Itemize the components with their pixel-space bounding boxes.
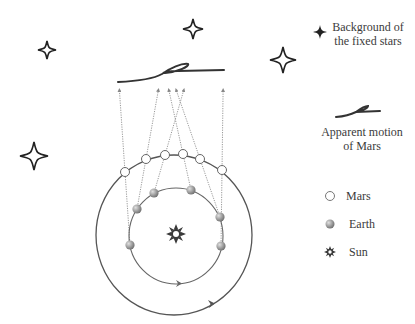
sun-icon — [166, 224, 186, 244]
fixed-star-icon — [38, 41, 56, 59]
legend-apparent-motion-line2: of Mars — [312, 139, 412, 153]
legend-mars-label: Mars — [346, 189, 371, 204]
legend-fixed-stars-line1: Background of — [328, 20, 408, 34]
legend-sun-icon — [324, 246, 336, 258]
earth-position — [125, 240, 134, 249]
mars-position — [218, 166, 227, 175]
earth-position — [215, 212, 224, 221]
retrograde-diagram — [0, 0, 415, 324]
apparent-motion-path — [118, 64, 224, 82]
fixed-stars — [20, 19, 296, 170]
legend-apparent-motion-label: Apparent motion of Mars — [312, 125, 412, 153]
mars-positions — [121, 150, 227, 177]
legend-earth-icon — [326, 220, 335, 229]
legend-fixed-star-icon — [313, 25, 327, 39]
mars-position — [142, 155, 151, 164]
legend-fixed-stars-line2: the fixed stars — [328, 34, 408, 48]
mars-position — [196, 155, 205, 164]
earth-position — [216, 241, 225, 250]
fixed-star-icon — [20, 142, 48, 170]
sight-lines — [119, 90, 223, 246]
legend-sun-label: Sun — [349, 245, 368, 260]
legend-earth-label: Earth — [349, 217, 375, 232]
mars-position — [121, 168, 130, 177]
mars-position — [161, 151, 170, 160]
mars-position — [179, 150, 188, 159]
fixed-star-icon — [270, 47, 296, 73]
earth-position — [132, 204, 141, 213]
legend-apparent-motion-icon — [336, 106, 380, 117]
legend-apparent-motion-line1: Apparent motion — [312, 125, 412, 139]
legend-mars-icon — [326, 192, 335, 201]
fixed-star-icon — [183, 19, 203, 39]
earth-position — [149, 188, 158, 197]
sight-line — [154, 90, 184, 193]
legend-fixed-stars-label: Background of the fixed stars — [328, 20, 408, 48]
earth-position — [186, 185, 195, 194]
